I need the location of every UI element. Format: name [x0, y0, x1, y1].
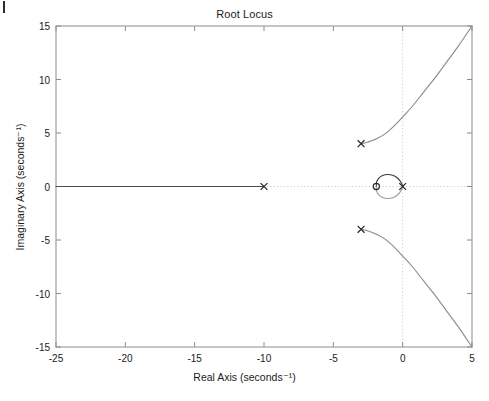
- y-tick-label: -5: [22, 235, 50, 246]
- root-locus-figure: Root Locus -25-20-15-10-505 151050-5-10-…: [0, 0, 489, 401]
- y-tick-label: -15: [22, 342, 50, 353]
- x-tick-label: 5: [469, 353, 475, 364]
- plot-canvas: [0, 0, 489, 401]
- x-tick-label: -5: [329, 353, 338, 364]
- y-tick-label: -10: [22, 288, 50, 299]
- pole-zero-markers: [261, 140, 406, 232]
- y-tick-label: 10: [22, 74, 50, 85]
- x-axis-label: Real Axis (seconds⁻¹): [0, 371, 489, 383]
- x-tick-label: -20: [118, 353, 132, 364]
- y-axis-label-wrap: Imaginary Axis (seconds⁻¹): [14, 187, 141, 199]
- x-tick-label: -25: [49, 353, 63, 364]
- x-tick-label: 0: [400, 353, 406, 364]
- y-tick-label: 5: [22, 128, 50, 139]
- y-axis-label: Imaginary Axis (seconds⁻¹): [14, 124, 26, 251]
- x-tick-label: -10: [257, 353, 271, 364]
- x-tick-label: -15: [187, 353, 201, 364]
- y-tick-label: 15: [22, 21, 50, 32]
